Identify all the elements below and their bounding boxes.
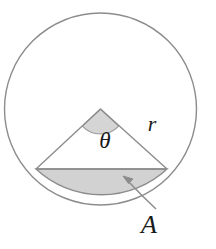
shaded-segment-area <box>36 169 167 195</box>
label-area: A <box>139 210 157 239</box>
radius-line-left <box>36 109 101 169</box>
figure-canvas: θ r A <box>0 0 216 249</box>
label-radius: r <box>148 111 157 136</box>
circle-sector-diagram: θ r A <box>0 0 216 249</box>
label-theta: θ <box>99 128 110 153</box>
